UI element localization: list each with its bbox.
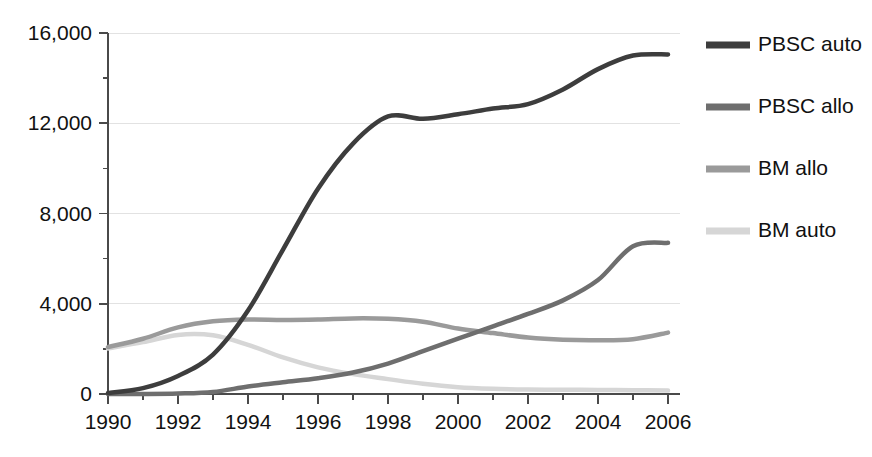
chart-figure: 16,00012,0008,0004,0000 1990199219941996… (0, 0, 872, 457)
x-axis-label: 2004 (575, 410, 622, 433)
legend-label: BM auto (758, 218, 836, 241)
y-axis-label: 12,000 (28, 111, 92, 134)
line-chart: 16,00012,0008,0004,0000 1990199219941996… (0, 0, 872, 457)
x-axis-label: 1992 (155, 410, 202, 433)
axis-ticks-group (99, 33, 668, 404)
legend-item-bm-auto[interactable]: BM auto (706, 218, 836, 241)
y-axis-label: 4,000 (39, 292, 92, 315)
caption-sliver (0, 451, 872, 457)
legend-label: PBSC allo (758, 94, 854, 117)
x-axis-labels-group: 199019921994199619982000200220042006 (85, 410, 692, 433)
series-group (108, 54, 668, 394)
x-axis-label: 2002 (505, 410, 552, 433)
y-axis-label: 16,000 (28, 21, 92, 44)
x-axis-label: 1990 (85, 410, 132, 433)
legend-label: BM allo (758, 156, 828, 179)
legend-item-pbsc-allo[interactable]: PBSC allo (706, 94, 854, 117)
legend-item-bm-allo[interactable]: BM allo (706, 156, 828, 179)
x-axis-label: 1998 (365, 410, 412, 433)
y-axis-label: 8,000 (39, 202, 92, 225)
y-axis-label: 0 (80, 382, 92, 405)
y-axis-labels-group: 16,00012,0008,0004,0000 (28, 21, 92, 405)
x-axis-label: 2006 (645, 410, 692, 433)
legend-label: PBSC auto (758, 32, 862, 55)
x-axis-label: 1994 (225, 410, 272, 433)
x-axis-label: 1996 (295, 410, 342, 433)
legend: PBSC autoPBSC alloBM alloBM auto (706, 32, 862, 241)
legend-item-pbsc-auto[interactable]: PBSC auto (706, 32, 862, 55)
x-axis-label: 2000 (435, 410, 482, 433)
